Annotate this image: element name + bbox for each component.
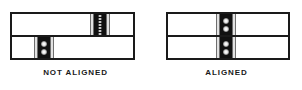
strip-assembly-not-aligned	[10, 12, 135, 60]
band-guard-right-icon	[106, 14, 110, 35]
band-dot	[223, 18, 229, 24]
band-dot	[98, 24, 102, 26]
band-dot	[223, 49, 229, 55]
band-guard-right-icon	[232, 37, 236, 58]
band-guard-right-icon	[232, 14, 236, 35]
band-dot	[98, 21, 102, 23]
band-core-dots	[94, 14, 106, 35]
caption-aligned: ALIGNED	[151, 68, 302, 78]
band-dot	[98, 18, 102, 20]
lower-strip-not-aligned	[12, 37, 133, 58]
panel-aligned: ALIGNED	[151, 0, 302, 90]
band-dot	[223, 41, 229, 47]
lower-registration-band-aligned	[216, 37, 236, 58]
upper-registration-band-aligned	[216, 14, 236, 35]
band-dot	[98, 15, 102, 17]
band-dot	[41, 49, 47, 55]
band-dot	[41, 41, 47, 47]
lower-strip-aligned	[168, 37, 288, 58]
band-dot	[98, 30, 102, 32]
band-dot	[98, 27, 102, 29]
upper-strip-not-aligned	[12, 14, 133, 35]
alignment-comparison-figure: NOT ALIGNED	[0, 0, 302, 90]
upper-strip-aligned	[168, 14, 288, 35]
strip-assembly-aligned	[166, 12, 290, 60]
band-guard-right-icon	[50, 37, 54, 58]
band-core-dots	[220, 37, 232, 58]
panel-not-aligned: NOT ALIGNED	[0, 0, 151, 90]
upper-registration-band-not-aligned	[90, 14, 110, 35]
band-core-dots	[38, 37, 50, 58]
caption-not-aligned: NOT ALIGNED	[0, 68, 151, 78]
lower-registration-band-not-aligned	[34, 37, 54, 58]
band-core-dots	[220, 14, 232, 35]
band-dot	[223, 26, 229, 32]
